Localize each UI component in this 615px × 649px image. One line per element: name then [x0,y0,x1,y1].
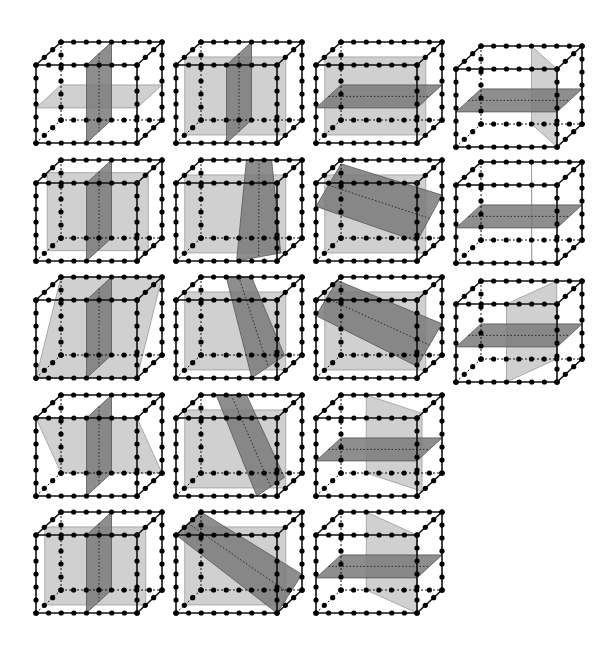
edge-bead [299,287,304,292]
edge-bead [351,117,356,122]
edge-bead [159,209,164,214]
edge-bead [109,375,114,380]
edge-bead [402,274,407,279]
edge-bead [431,282,436,287]
edge-bead [439,574,444,579]
edge-bead [554,379,559,384]
edge-bead [377,493,382,498]
edge-bead [439,104,444,109]
edge-bead [427,509,432,514]
edge-bead [491,121,496,126]
edge-bead [159,235,164,240]
edge-bead [330,400,335,405]
edge-bead [313,375,318,380]
edge-bead [291,47,296,52]
edge-bead [389,493,394,498]
edge-bead [478,69,483,74]
cube-edge [417,160,442,183]
edge-bead [313,232,318,237]
edge-bead [190,478,195,483]
edge-bead [122,509,127,514]
edge-bead [414,310,419,315]
edge-bead [414,558,419,563]
edge-bead [109,117,114,122]
edge-bead [173,75,178,80]
edge-bead [33,245,38,250]
edge-bead [529,237,534,242]
edge-bead [423,525,428,530]
edge-bead [33,297,38,302]
edge-bead [364,509,369,514]
edge-bead [58,392,63,397]
edge-bead [50,125,55,130]
cube-diagram-grid [0,0,615,649]
edge-bead [33,336,38,341]
edge-bead [462,294,467,299]
edge-bead [431,360,436,365]
edge-bead [186,532,191,537]
edge-bead [236,352,241,357]
edge-bead [249,62,254,67]
edge-bead [431,400,436,405]
edge-bead [134,101,139,106]
edge-bead [173,127,178,132]
edge-bead [376,509,381,514]
edge-bead [322,603,327,608]
edge-bead [211,375,216,380]
cube-edge [456,162,481,185]
edge-bead [182,290,187,295]
edge-bead [470,129,475,134]
edge-bead [529,356,534,361]
edge-bead [554,105,559,110]
edge-bead [439,457,444,462]
edge-bead [478,56,483,61]
edge-bead [159,587,164,592]
edge-bead [71,39,76,44]
edge-bead [71,587,76,592]
edge-bead [71,352,76,357]
edge-bead [326,375,331,380]
edge-bead [71,610,76,615]
edge-bead [402,117,407,122]
edge-bead [470,364,475,369]
cube-edge [137,512,162,535]
edge-bead [236,274,241,279]
edge-bead [339,140,344,145]
edge-bead [338,405,343,410]
edge-bead [97,415,102,420]
edge-bead [33,597,38,602]
edge-bead [364,352,369,357]
hidden-edge [316,473,341,496]
edge-bead [58,65,63,70]
edge-bead [504,237,509,242]
edge-bead [439,431,444,436]
edge-bead [466,182,471,187]
edge-bead [439,235,444,240]
cube-edge [557,46,582,69]
edge-bead [338,65,343,70]
edge-bead [198,91,203,96]
edge-bead [262,509,267,514]
edge-bead [198,196,203,201]
edge-bead [330,47,335,52]
edge-bead [414,509,419,514]
edge-bead [351,258,356,263]
edge-bead [173,597,178,602]
edge-bead [299,117,304,122]
edge-bead [134,127,139,132]
edge-bead [439,78,444,83]
edge-bead [58,52,63,57]
edge-bead [466,260,471,265]
edge-bead [571,129,576,134]
edge-bead [453,195,458,200]
edge-bead [33,258,38,263]
edge-bead [579,343,584,348]
edge-bead [249,117,254,122]
edge-bead [134,232,139,237]
edge-bead [338,352,343,357]
edge-bead [159,522,164,527]
edge-bead [71,532,76,537]
edge-bead [414,493,419,498]
edge-bead [579,56,584,61]
cube-diagram [310,36,448,149]
